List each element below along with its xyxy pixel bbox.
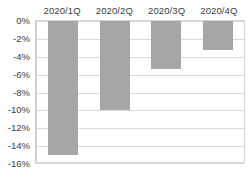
plot-area bbox=[36, 20, 245, 163]
category-label: 2020/3Q bbox=[141, 1, 193, 19]
y-axis-tick-label: -2% bbox=[13, 32, 30, 43]
bar[interactable] bbox=[48, 21, 78, 155]
y-axis-tick-label: -10% bbox=[8, 104, 30, 115]
bars-layer bbox=[37, 21, 244, 162]
y-axis-tick-label: -14% bbox=[8, 140, 30, 151]
y-axis-tick-label: -12% bbox=[8, 122, 30, 133]
category-label: 2020/4Q bbox=[193, 1, 245, 19]
category-label: 2020/1Q bbox=[36, 1, 88, 19]
y-axis-tick-label: 0% bbox=[16, 15, 30, 26]
bar[interactable] bbox=[100, 21, 130, 110]
bar-slot bbox=[192, 21, 244, 162]
value-axis: 0%-2%-4%-6%-8%-10%-12%-14%-16% bbox=[0, 20, 34, 163]
category-axis: 2020/1Q2020/2Q2020/3Q2020/4Q bbox=[36, 1, 245, 19]
bar-slot bbox=[37, 21, 89, 162]
gridline bbox=[37, 163, 244, 164]
y-axis-tick-label: -8% bbox=[13, 86, 30, 97]
bar[interactable] bbox=[203, 21, 233, 50]
y-axis-tick-label: -4% bbox=[13, 50, 30, 61]
bar-slot bbox=[141, 21, 193, 162]
bar-slot bbox=[89, 21, 141, 162]
y-axis-tick-label: -6% bbox=[13, 68, 30, 79]
y-axis-tick-label: -16% bbox=[8, 158, 30, 169]
category-label: 2020/2Q bbox=[88, 1, 140, 19]
bar-chart: 2020/1Q2020/2Q2020/3Q2020/4Q 0%-2%-4%-6%… bbox=[0, 0, 250, 178]
bar[interactable] bbox=[151, 21, 181, 69]
